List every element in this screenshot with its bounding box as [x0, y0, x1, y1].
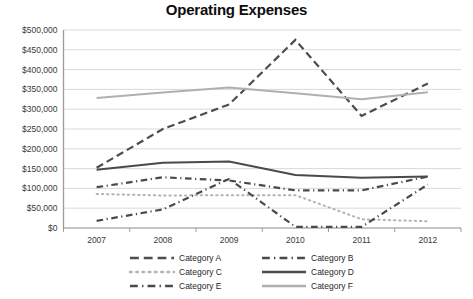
legend-label: Category D — [311, 267, 354, 277]
x-axis-tick-label: 2007 — [87, 235, 106, 245]
chart-legend: Category ACategory BCategory CCategory D… — [128, 251, 378, 293]
legend-entry-category-f[interactable]: Category F — [260, 279, 378, 293]
x-axis-tick-label: 2011 — [352, 235, 371, 245]
legend-entry-category-e[interactable]: Category E — [128, 279, 246, 293]
x-axis-tick-label: 2012 — [418, 235, 437, 245]
y-axis-tick-label: $200,000 — [22, 144, 58, 154]
legend-label: Category F — [311, 281, 353, 291]
chart-plot-area: $500,000$450,000$400,000$350,000$300,000… — [0, 0, 473, 250]
x-axis-tick-label: 2008 — [153, 235, 172, 245]
y-axis-tick-label: $350,000 — [22, 84, 58, 94]
legend-label: Category C — [179, 267, 222, 277]
legend-swatch-category-b — [260, 253, 308, 263]
legend-swatch-category-e — [128, 281, 176, 291]
operating-expenses-chart: Operating Expenses $500,000$450,000$400,… — [0, 0, 473, 299]
y-axis-tick-label: $300,000 — [22, 104, 58, 114]
y-axis-tick-label: $100,000 — [22, 183, 58, 193]
y-axis-tick-labels: $500,000$450,000$400,000$350,000$300,000… — [22, 25, 58, 233]
series-line-category-d — [97, 161, 428, 177]
y-axis-tick-label: $50,000 — [27, 203, 58, 213]
y-axis-tick-label: $150,000 — [22, 164, 58, 174]
y-axis-tick-label: $0 — [48, 223, 58, 233]
legend-entry-category-c[interactable]: Category C — [128, 265, 246, 279]
y-axis-tick-label: $500,000 — [22, 25, 58, 35]
legend-swatch-category-c — [128, 267, 176, 277]
y-axis-tick-label: $450,000 — [22, 45, 58, 55]
legend-swatch-category-d — [260, 267, 308, 277]
x-axis-tick-label: 2010 — [286, 235, 305, 245]
gridlines — [64, 30, 462, 228]
y-axis-tick-label: $400,000 — [22, 65, 58, 75]
legend-entry-category-d[interactable]: Category D — [260, 265, 378, 279]
data-series-lines — [97, 40, 428, 227]
y-axis-tick-label: $250,000 — [22, 124, 58, 134]
x-axis-tick-labels: 200720082009201020112012 — [87, 235, 437, 245]
legend-label: Category E — [179, 281, 222, 291]
x-axis-tick-marks — [64, 228, 462, 232]
legend-entry-category-a[interactable]: Category A — [128, 251, 246, 265]
x-axis-tick-label: 2009 — [220, 235, 239, 245]
legend-label: Category B — [311, 253, 354, 263]
legend-swatch-category-f — [260, 281, 308, 291]
legend-entry-category-b[interactable]: Category B — [260, 251, 378, 265]
legend-label: Category A — [179, 253, 221, 263]
legend-swatch-category-a — [128, 253, 176, 263]
